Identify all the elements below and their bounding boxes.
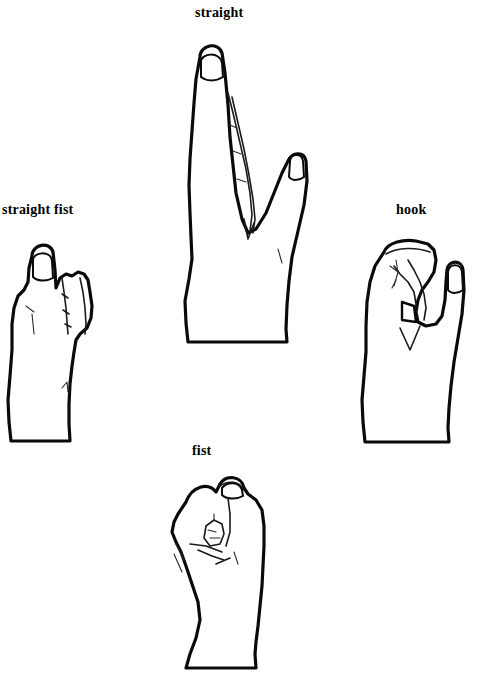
- diagram-canvas: straight straight fist: [0, 0, 485, 694]
- figure-label-straight: straight: [195, 6, 243, 20]
- hand-straight-fist-icon: [4, 234, 116, 456]
- hand-fist-icon: [150, 470, 280, 686]
- hand-straight-finger-icon: [170, 33, 310, 345]
- figure-label-straight-fist: straight fist: [2, 203, 73, 217]
- figure-label-hook: hook: [396, 203, 426, 217]
- figure-label-fist: fist: [192, 444, 211, 458]
- hand-hook-icon: [352, 230, 468, 456]
